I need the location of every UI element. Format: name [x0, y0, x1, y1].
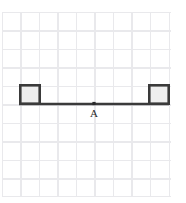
diagram-layer: A [0, 0, 186, 203]
figure-root: A [0, 0, 186, 203]
right-block [149, 85, 168, 103]
point-a-marker [92, 102, 95, 105]
point-a-label: A [90, 108, 98, 119]
diagram-shapes [0, 0, 186, 203]
left-block [20, 85, 39, 103]
